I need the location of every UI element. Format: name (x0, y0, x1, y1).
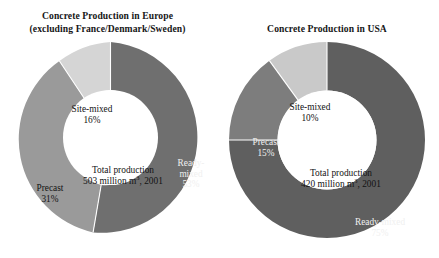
center-line-2-europe: 503 million m3, 2001 (38, 176, 208, 187)
center-year-europe: , 2001 (139, 176, 162, 186)
chart-title-usa: Concrete Production in USA (215, 23, 439, 36)
donut-chart-europe: Ready- mixed 53% Precast 31% Site-mixed … (13, 40, 208, 235)
chart-panel-usa: Concrete Production in USA Ready-mixed 7… (215, 0, 439, 258)
center-line-1-europe: Total production (38, 165, 208, 176)
donut-center-label-europe: Total production 503 million m3, 2001 (38, 165, 208, 188)
center-total-europe: 503 million m (83, 176, 136, 186)
center-line-2-usa: 420 million m3, 2001 (255, 179, 427, 190)
segment-label-site-mixed-europe: Site-mixed 16% (54, 104, 130, 125)
figure-canvas: Concrete Production in Europe (excluding… (0, 0, 439, 258)
donut-center-label-usa: Total production 420 million m3, 2001 (255, 168, 427, 191)
center-line-1-usa: Total production (255, 168, 427, 179)
segment-label-ready-mixed-usa: Ready-mixed 75% (332, 217, 428, 238)
donut-chart-usa: Ready-mixed 75% Precast 15% Site-mixed 1… (227, 40, 427, 240)
center-year-usa: , 2001 (357, 179, 380, 189)
segment-label-site-mixed-usa: Site-mixed 10% (271, 102, 349, 123)
chart-panel-europe: Concrete Production in Europe (excluding… (0, 0, 215, 258)
chart-title-europe: Concrete Production in Europe (excluding… (0, 10, 215, 35)
center-total-usa: 420 million m (301, 179, 354, 189)
segment-label-precast-usa: Precast 15% (233, 137, 299, 158)
